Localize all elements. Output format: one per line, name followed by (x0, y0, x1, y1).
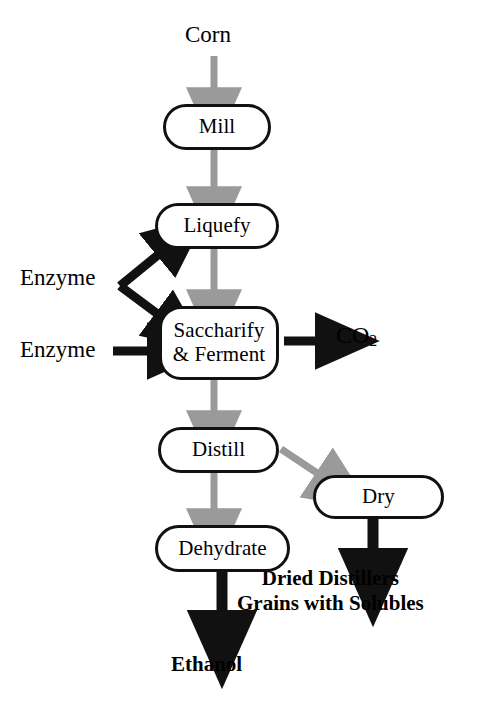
label-enzyme-ferment: Enzyme (20, 337, 95, 363)
node-distill-label: Distill (192, 438, 245, 462)
label-co2: CO2 (336, 322, 377, 350)
flowchart-diagram: Corn Enzyme Enzyme CO2 Dried Distillers … (0, 0, 488, 702)
label-corn: Corn (185, 22, 231, 48)
label-enzyme-liquefy: Enzyme (20, 265, 95, 291)
node-distill[interactable]: Distill (158, 427, 279, 473)
node-dry[interactable]: Dry (313, 475, 444, 519)
co2-text: CO (336, 322, 369, 348)
node-mill-label: Mill (199, 115, 236, 139)
edge-enzyme-fork (120, 250, 164, 318)
node-liquefy-label: Liquefy (183, 214, 250, 238)
node-dehydrate[interactable]: Dehydrate (155, 525, 290, 572)
node-dehydrate-label: Dehydrate (178, 537, 266, 561)
co2-subscript: 2 (369, 332, 377, 349)
label-ddgs: Dried Distillers Grains with Solubles (237, 566, 424, 616)
edge-distill-to-dry (281, 449, 323, 477)
node-dry-label: Dry (362, 485, 395, 509)
node-mill[interactable]: Mill (163, 104, 271, 150)
node-liquefy[interactable]: Liquefy (155, 203, 279, 249)
node-saccharify-ferment-label: Saccharify & Ferment (173, 319, 265, 366)
node-saccharify-ferment[interactable]: Saccharify & Ferment (159, 306, 279, 380)
label-ethanol: Ethanol (171, 652, 242, 677)
